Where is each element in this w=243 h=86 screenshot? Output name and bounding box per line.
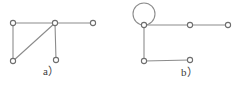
graph-node — [141, 58, 146, 63]
graph-node — [10, 58, 15, 63]
graph-node — [53, 57, 58, 62]
graph-edge — [55, 23, 56, 60]
panel-b-caption: b） — [181, 67, 199, 78]
graph-edge — [13, 23, 55, 61]
panel-a-caption: a） — [43, 66, 60, 77]
graph-node — [52, 20, 57, 25]
graph-canvas — [0, 0, 243, 86]
panel-b-graph — [133, 3, 231, 64]
graph-figure: a） b） — [0, 0, 243, 86]
graph-node — [141, 22, 146, 27]
graph-node — [187, 57, 192, 62]
graph-node — [90, 20, 95, 25]
graph-node — [10, 20, 15, 25]
graph-edge — [144, 60, 190, 61]
graph-node — [187, 22, 192, 27]
panel-a-graph — [10, 20, 95, 63]
graph-self-loop — [133, 3, 155, 25]
graph-node — [225, 22, 230, 27]
